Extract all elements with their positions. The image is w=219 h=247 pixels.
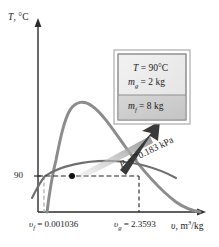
inset-liquid-mass-label: mf = 8 kg <box>128 101 163 113</box>
x-axis-unit-tail: /kg <box>191 221 203 231</box>
inset-liquid-mass-symbol: m <box>128 101 135 111</box>
inset-liquid-mass-value: = 8 kg <box>137 101 164 111</box>
vg-tick-label: υg = 2.3593 <box>114 219 156 231</box>
vg-value: = 2.3593 <box>121 219 155 229</box>
vf-value: = 0.001036 <box>35 219 78 229</box>
inset-vapor-mass-symbol: m <box>128 77 135 87</box>
x-axis-title: υ, m3/kg <box>171 219 204 231</box>
inset-vapor-mass-label: mg = 2 kg <box>128 77 165 89</box>
y-tick-label-90: 90 <box>14 170 23 180</box>
t-v-diagram <box>0 0 219 247</box>
inset-temperature-label: T = 90°C <box>133 63 168 73</box>
x-axis-unit: , m <box>175 221 187 231</box>
vf-tick-label: υf = 0.001036 <box>29 219 78 231</box>
state-point-marker <box>69 173 75 179</box>
y-axis-title: T, °C <box>8 12 29 22</box>
inset-temperature-value: = 90°C <box>138 63 168 73</box>
y-axis-arrowhead <box>35 18 42 27</box>
inset-vapor-mass-value: = 2 kg <box>138 77 165 87</box>
y-axis-unit: , °C <box>13 12 28 22</box>
